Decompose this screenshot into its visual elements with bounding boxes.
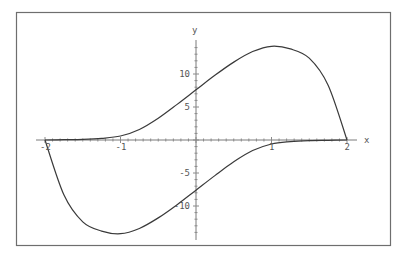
x-tick-label: 1: [269, 142, 274, 152]
y-tick-label: -5: [179, 168, 190, 178]
x-axis-label: x: [364, 135, 370, 145]
y-axis-label: y: [192, 25, 198, 35]
x-tick-label: -2: [40, 142, 51, 152]
y-tick-label: 10: [179, 69, 190, 79]
x-tick-label: 2: [345, 142, 350, 152]
plot-area: -2-112105-5-10 x y: [0, 0, 404, 256]
x-tick-label: -1: [116, 142, 127, 152]
y-tick-label: 5: [185, 102, 190, 112]
y-tick-label: -10: [174, 201, 190, 211]
